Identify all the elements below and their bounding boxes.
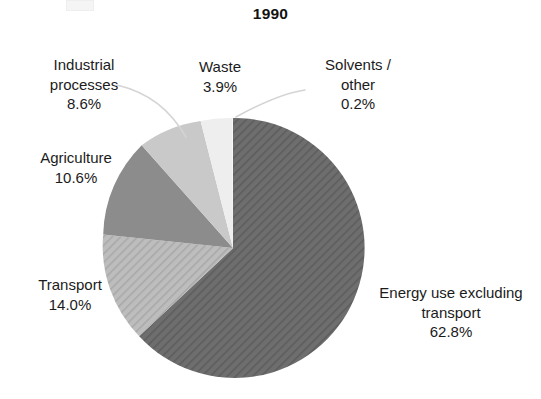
slice-value: 14.0% [10,295,130,315]
slice-label-line: Energy use excluding [362,283,540,303]
slice-label-line: processes [22,75,146,95]
slice-label-line: Agriculture [16,148,136,168]
slice-value: 62.8% [362,322,540,342]
slice-label-industrial-processes: Industrial processes 8.6% [22,55,146,114]
slice-label-agriculture: Agriculture 10.6% [16,148,136,187]
slice-value: 8.6% [22,94,146,114]
slice-value: 0.2% [304,94,412,114]
slice-label-energy-use-excluding-transport: Energy use excluding transport 62.8% [362,283,540,342]
slice-label-line: Transport [10,275,130,295]
slice-value: 10.6% [16,168,136,188]
slice-label-line: other [304,75,412,95]
slice-label-line: Waste [172,57,268,77]
pie-slices [103,118,365,378]
slice-label-transport: Transport 14.0% [10,275,130,314]
slice-label-line: Industrial [22,55,146,75]
slice-label-waste: Waste 3.9% [172,57,268,96]
slice-label-solvents-other: Solvents / other 0.2% [304,55,412,114]
slice-label-line: transport [362,303,540,323]
pie-chart-figure: 1990 [0,0,541,399]
slice-value: 3.9% [172,77,268,97]
slice-label-line: Solvents / [304,55,412,75]
